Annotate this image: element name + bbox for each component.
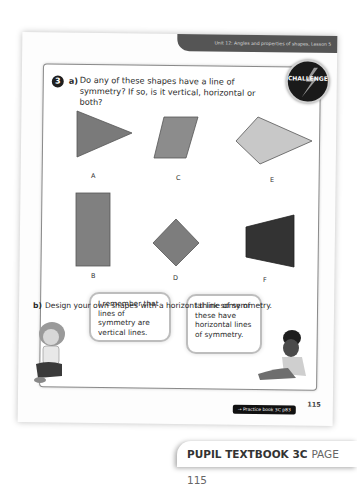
shape-label-b: B bbox=[91, 272, 95, 280]
girl-character-right bbox=[256, 330, 314, 382]
shape-c-parallelogram bbox=[154, 117, 198, 158]
book-page-tab: PUPIL TEXTBOOK 3CPAGE 115 bbox=[177, 441, 357, 467]
shape-label-d: D bbox=[173, 274, 178, 282]
shape-label-a: A bbox=[91, 172, 95, 180]
shape-b-rectangle bbox=[76, 193, 110, 266]
shape-label-e: E bbox=[270, 176, 274, 184]
speech-bubble-left: I remember that lines of symmetry are ve… bbox=[89, 292, 171, 342]
shape-label-f: F bbox=[263, 276, 267, 284]
shape-a-triangle bbox=[77, 111, 132, 157]
part-b-label: b) bbox=[33, 301, 42, 310]
girl-character-left bbox=[28, 320, 70, 385]
shape-e-pentagon bbox=[236, 117, 312, 164]
shape-label-c: C bbox=[176, 174, 181, 182]
shape-d-diamond bbox=[153, 219, 199, 266]
part-b-text: Design your own shapes with a horizontal… bbox=[45, 301, 272, 310]
part-b: b)Design your own shapes with a horizont… bbox=[33, 301, 272, 310]
book-title: PUPIL TEXTBOOK 3C bbox=[187, 448, 307, 460]
shape-f-trapezium bbox=[246, 215, 294, 267]
